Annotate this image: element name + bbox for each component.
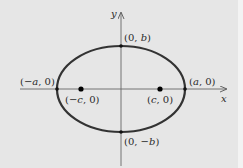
vertex-left-label: (−a, 0) <box>20 76 55 87</box>
focus-left-point <box>78 86 83 91</box>
focus-left-label: (−c, 0) <box>65 94 100 105</box>
focus-right-label: (c, 0) <box>147 94 173 105</box>
vertex-bottom-point <box>119 130 123 134</box>
vertex-right-point <box>183 87 187 91</box>
y-axis-label: y <box>110 8 117 19</box>
focus-right-point <box>157 86 162 91</box>
vertex-bottom-label: (0, −b) <box>124 136 159 147</box>
vertex-left-point <box>55 87 59 91</box>
x-axis-label: x <box>221 93 227 104</box>
vertex-top-label: (0, b) <box>124 32 151 43</box>
ellipse-diagram: y x (0, b) (0, −b) (−a, 0) (a, 0) (−c, 0… <box>0 0 243 168</box>
vertex-top-point <box>119 44 123 48</box>
vertex-right-label: (a, 0) <box>189 76 216 87</box>
